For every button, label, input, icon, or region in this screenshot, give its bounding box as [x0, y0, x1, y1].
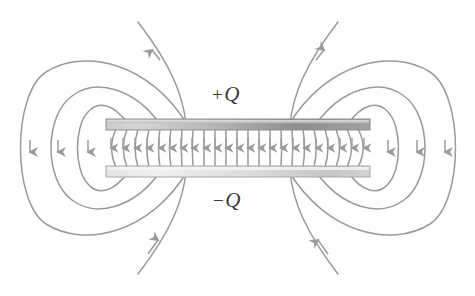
interior-line	[123, 129, 127, 167]
electric-field-diagram	[0, 0, 475, 296]
positive-charge-symbol: Q	[224, 82, 240, 106]
open-field-lines	[138, 22, 338, 274]
plus-sign: +	[212, 84, 224, 105]
interior-field-arrowheads	[111, 138, 364, 148]
right-loop-arrowheads	[388, 140, 445, 152]
left-fringe-loops	[21, 61, 189, 235]
right-loop-inner	[348, 105, 399, 191]
right-fringe-loops	[288, 61, 456, 235]
negative-charge-symbol: Q	[225, 188, 241, 212]
positive-plate	[106, 119, 370, 130]
negative-plate	[106, 166, 370, 177]
open-line-bottom-left	[138, 172, 186, 274]
interior-line	[336, 129, 340, 167]
left-loop-arrowheads	[30, 140, 88, 152]
capacitor-field-figure: +Q −Q	[0, 0, 475, 296]
interior-line	[358, 129, 363, 167]
left-loop-inner	[78, 105, 129, 191]
positive-charge-label: +Q	[212, 82, 240, 107]
negative-charge-label: −Q	[213, 188, 241, 213]
open-line-top-right	[290, 22, 338, 124]
interior-line	[347, 129, 352, 167]
minus-sign: −	[213, 190, 225, 211]
open-line-top-left	[138, 22, 186, 124]
open-line-bottom-right	[290, 172, 338, 274]
interior-line	[112, 129, 117, 167]
